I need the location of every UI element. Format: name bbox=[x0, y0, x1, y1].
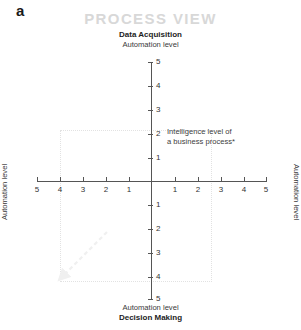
process-view-diagram: a PROCESS VIEW 5 4 3 2 1 1 2 3 4 5 5 4 bbox=[0, 0, 301, 330]
tick-up-2 bbox=[148, 134, 153, 135]
axis-bottom-name: Decision Making bbox=[0, 313, 301, 323]
tick-up-5 bbox=[148, 62, 153, 63]
tick-right-4 bbox=[244, 177, 245, 182]
axis-top-name: Data Acquisition bbox=[0, 30, 301, 40]
tick-label-up-5: 5 bbox=[156, 57, 166, 66]
tick-down-2 bbox=[148, 229, 153, 230]
tick-right-5 bbox=[266, 177, 267, 182]
tick-label-right-2: 2 bbox=[191, 185, 205, 194]
tick-label-up-2: 2 bbox=[156, 129, 166, 138]
tick-label-left-5: 5 bbox=[30, 185, 44, 194]
tick-label-up-4: 4 bbox=[156, 81, 166, 90]
annotation-line-2: a business process* bbox=[167, 137, 259, 147]
axis-caption-bottom: Automation level Decision Making bbox=[0, 303, 301, 323]
tick-right-1 bbox=[175, 177, 176, 182]
axis-bottom-sublabel: Automation level bbox=[0, 303, 301, 313]
tick-label-right-3: 3 bbox=[214, 185, 228, 194]
tick-left-2 bbox=[106, 177, 107, 182]
tick-down-4 bbox=[148, 277, 153, 278]
tick-label-right-5: 5 bbox=[259, 185, 273, 194]
tick-label-down-2: 2 bbox=[156, 224, 166, 233]
annotation-intelligence-level: Intelligence level of a business process… bbox=[167, 127, 259, 146]
tick-right-2 bbox=[198, 177, 199, 182]
tick-left-1 bbox=[129, 177, 130, 182]
tick-left-3 bbox=[83, 177, 84, 182]
axis-caption-top: Data Acquisition Automation level bbox=[0, 30, 301, 50]
tick-label-up-1: 1 bbox=[156, 153, 166, 162]
tick-label-down-3: 3 bbox=[156, 248, 166, 257]
tick-label-left-2: 2 bbox=[99, 185, 113, 194]
tick-label-down-4: 4 bbox=[156, 272, 166, 281]
tick-label-right-4: 4 bbox=[237, 185, 251, 194]
tick-label-down-1: 1 bbox=[156, 200, 166, 209]
tick-down-3 bbox=[148, 253, 153, 254]
axis-top-sublabel: Automation level bbox=[0, 40, 301, 50]
vertical-axis bbox=[151, 62, 152, 300]
tick-label-up-3: 3 bbox=[156, 105, 166, 114]
axis-caption-left: Action Making Automation level bbox=[0, 144, 10, 240]
tick-label-left-3: 3 bbox=[76, 185, 90, 194]
dotted-region bbox=[60, 130, 212, 282]
tick-left-4 bbox=[60, 177, 61, 182]
watermark-title: PROCESS VIEW bbox=[0, 10, 301, 27]
tick-down-5 bbox=[148, 299, 153, 300]
axis-caption-right: Information Analysis Automation level bbox=[291, 144, 301, 240]
axis-right-sublabel: Automation level bbox=[291, 144, 301, 240]
tick-label-left-1: 1 bbox=[122, 185, 136, 194]
tick-right-3 bbox=[221, 177, 222, 182]
tick-up-3 bbox=[148, 110, 153, 111]
tick-label-down-5: 5 bbox=[156, 294, 166, 303]
annotation-line-1: Intelligence level of bbox=[167, 127, 259, 137]
axis-left-sublabel: Automation level bbox=[0, 144, 10, 240]
tick-left-5 bbox=[37, 177, 38, 182]
tick-label-right-1: 1 bbox=[168, 185, 182, 194]
tick-up-4 bbox=[148, 86, 153, 87]
tick-label-left-4: 4 bbox=[53, 185, 67, 194]
tick-down-1 bbox=[148, 205, 153, 206]
tick-up-1 bbox=[148, 158, 153, 159]
